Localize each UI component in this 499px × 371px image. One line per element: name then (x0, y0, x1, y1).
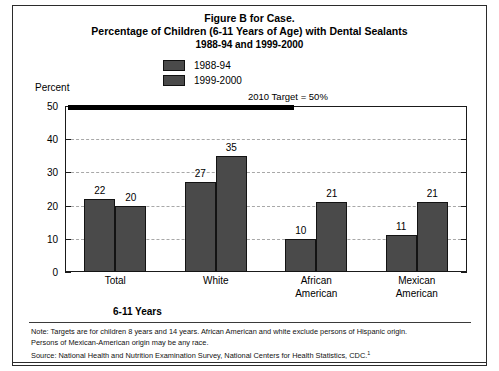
y-tick-label-50: 50 (32, 101, 58, 112)
y-tick-label-0: 0 (32, 267, 58, 278)
target-annotation-label: 2010 Target = 50% (248, 91, 328, 102)
bar-value-label: 22 (94, 185, 105, 196)
bar-white-1988-94 (185, 182, 216, 272)
x-label-white: White (203, 274, 229, 287)
figure-container: Figure B for Case. Percentage of Childre… (0, 0, 499, 371)
bar-total-1988-94 (84, 199, 115, 272)
legend-item-1988-94: 1988-94 (163, 58, 242, 73)
footnote-block: Note: Targets are for children 8 years a… (31, 326, 471, 362)
footnote-line-3: Source: National Health and Nutrition Ex… (31, 349, 471, 362)
figure-title-line-1: Figure B for Case. (20, 12, 479, 25)
bar-value-label: 21 (427, 188, 438, 199)
footnote-superscript: 1 (367, 350, 370, 356)
footnote-source-text: Source: National Health and Nutrition Ex… (31, 351, 367, 360)
bar-total-1999-2000 (115, 206, 146, 272)
bar-african-american-1999-2000 (316, 202, 347, 272)
legend-item-1999-2000: 1999-2000 (163, 73, 242, 88)
x-label-mexican-american: MexicanAmerican (396, 274, 438, 300)
y-tick-label-20: 20 (32, 200, 58, 211)
x-axis-tick-labels: TotalWhiteAfricanAmericanMexicanAmerican (65, 274, 467, 308)
y-axis-title: Percent (35, 82, 69, 93)
bar-mexican-american-1988-94 (386, 235, 417, 272)
y-tick-label-30: 30 (32, 167, 58, 178)
footnote-divider (29, 322, 471, 323)
chart-legend: 1988-94 1999-2000 (163, 58, 242, 88)
legend-label-1988-94: 1988-94 (194, 60, 231, 71)
y-tick-label-10: 10 (32, 233, 58, 244)
legend-swatch-icon-1988-94 (163, 60, 185, 71)
legend-label-1999-2000: 1999-2000 (194, 75, 242, 86)
bar-african-american-1988-94 (285, 239, 316, 272)
bar-value-label: 20 (125, 192, 136, 203)
figure-title-line-2: Percentage of Children (6-11 Years of Ag… (20, 25, 479, 38)
figure-bottom-rule (13, 362, 486, 363)
bars-layer: 2220273510211121 (65, 106, 467, 272)
x-label-african-american: AfricanAmerican (295, 274, 337, 300)
x-label-total: Total (105, 274, 126, 287)
legend-swatch-icon-1999-2000 (163, 75, 185, 86)
bar-mexican-american-1999-2000 (417, 202, 448, 272)
figure-title-line-3: 1988-94 and 1999-2000 (20, 39, 479, 52)
footnote-line-2: Persons of Mexican-American origin may b… (31, 337, 471, 348)
bar-value-label: 27 (195, 168, 206, 179)
footnote-line-1: Note: Targets are for children 8 years a… (31, 326, 471, 337)
figure-title-block: Figure B for Case. Percentage of Childre… (20, 12, 479, 52)
bar-white-1999-2000 (216, 156, 247, 272)
bar-value-label: 21 (326, 188, 337, 199)
y-tick-label-40: 40 (32, 134, 58, 145)
bar-value-label: 35 (226, 142, 237, 153)
y-axis-tick-labels: 01020304050 (30, 106, 58, 272)
x-axis-title: 6-11 Years (113, 306, 162, 317)
y-tick-right-0 (461, 272, 467, 273)
bar-value-label: 11 (396, 221, 406, 232)
bar-value-label: 10 (295, 225, 306, 236)
y-tick-left-0 (65, 272, 71, 273)
